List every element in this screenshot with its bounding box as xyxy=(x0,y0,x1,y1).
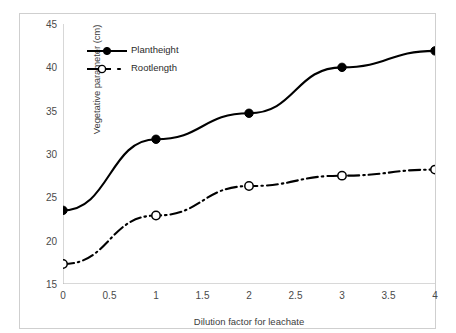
chart-legend: Plantheight Rootlength xyxy=(85,42,215,78)
data-point-plantheight xyxy=(245,109,253,117)
y-tick-label: 45 xyxy=(46,19,57,30)
series-layer xyxy=(63,47,435,269)
y-tick-label: 20 xyxy=(46,235,57,246)
y-tick-label: 30 xyxy=(46,149,57,160)
x-tick-label: 4 xyxy=(432,290,438,301)
legend-item-plantheight: Plantheight xyxy=(85,42,215,60)
data-point-rootlength xyxy=(152,211,160,219)
data-point-plantheight xyxy=(63,206,67,214)
legend-key-solid-filled-circle-icon xyxy=(85,42,129,60)
data-point-rootlength xyxy=(431,165,435,173)
legend-key-dashdot-open-circle-icon xyxy=(85,60,129,78)
x-tick-label: 3 xyxy=(339,290,345,301)
x-tick-label: 2 xyxy=(246,290,252,301)
legend-label-rootlength: Rootlength xyxy=(131,62,177,73)
x-axis-title: Dilution factor for leachate xyxy=(63,316,435,327)
data-point-plantheight xyxy=(431,47,435,55)
y-tick-label: 40 xyxy=(46,62,57,73)
x-tick-label: 0.5 xyxy=(103,290,117,301)
data-point-plantheight xyxy=(338,63,346,71)
x-tick-label: 1.5 xyxy=(196,290,210,301)
y-tick-label: 25 xyxy=(46,192,57,203)
y-tick-label: 15 xyxy=(46,279,57,290)
data-point-rootlength xyxy=(245,182,253,190)
y-tick-label: 35 xyxy=(46,105,57,116)
x-tick-label: 2.5 xyxy=(289,290,303,301)
x-tick-label: 0 xyxy=(60,290,66,301)
chart-figure: 15202530354045 00.511.522.533.54 Vegetat… xyxy=(0,0,456,333)
legend-label-plantheight: Plantheight xyxy=(131,44,179,55)
data-point-rootlength xyxy=(338,171,346,179)
x-tick-label: 1 xyxy=(153,290,159,301)
data-point-rootlength xyxy=(63,260,67,268)
x-tick-label: 3.5 xyxy=(382,290,396,301)
y-axis-title: Vegetative parameter (cm) xyxy=(91,0,102,165)
plot-area: 15202530354045 00.511.522.533.54 Vegetat… xyxy=(63,24,435,284)
legend-item-rootlength: Rootlength xyxy=(85,60,215,78)
data-point-plantheight xyxy=(152,135,160,143)
